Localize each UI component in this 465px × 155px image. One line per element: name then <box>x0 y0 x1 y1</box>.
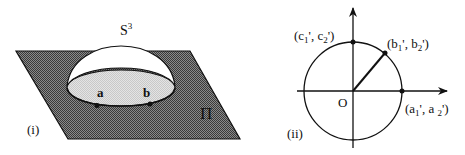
panel-label-i: (i) <box>27 123 39 136</box>
sphere-label-text: S <box>120 23 128 38</box>
point-a-prime-label: (a1', a 2') <box>405 102 449 118</box>
point-c-label: (c1', c2') <box>294 29 334 45</box>
c-close: ') <box>328 28 335 43</box>
point-a-label: a <box>97 86 104 99</box>
sphere-superscript: 3 <box>128 21 133 31</box>
point-a <box>95 103 100 108</box>
b-mid: ', b <box>402 36 417 51</box>
a-close: ') <box>442 101 449 116</box>
panel-label-ii: (ii) <box>287 127 303 140</box>
point-c <box>351 40 356 45</box>
point-a-prime <box>400 89 405 94</box>
point-b-label: b <box>143 86 150 99</box>
c-open: (c <box>294 28 304 43</box>
a-mid: ', a <box>420 101 438 116</box>
origin-label: O <box>338 96 347 109</box>
plane-label: Π <box>200 105 212 122</box>
sphere-label: S3 <box>120 22 132 38</box>
point-b <box>148 102 153 107</box>
c-mid: ', c <box>309 28 324 43</box>
radius-to-b <box>353 53 385 91</box>
b-open: (b <box>387 36 398 51</box>
diagram-canvas <box>0 0 465 155</box>
point-b-prime-label: (b1', b2') <box>387 37 429 53</box>
a-open: (a <box>405 101 415 116</box>
figure-i <box>16 46 240 139</box>
b-close: ') <box>422 36 429 51</box>
